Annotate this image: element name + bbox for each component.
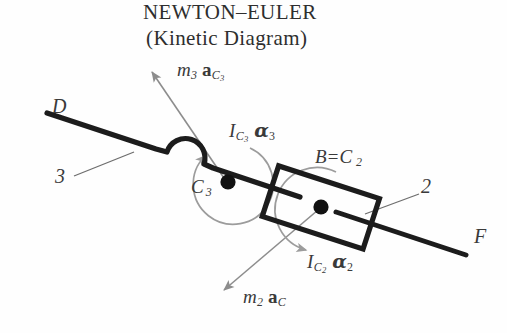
IC2-inertia-subscript: C — [313, 260, 321, 274]
IC2-alpha-symbol: α — [326, 250, 347, 272]
label-center-c3: C3 — [191, 177, 212, 199]
IC2-alpha-subscript: 2 — [347, 260, 353, 274]
m2-accel-subscript: C — [278, 295, 286, 309]
label-moment-IC3-alpha3: IC3α3 — [229, 121, 275, 143]
label-moment-IC2-alpha2: IC2α2 — [307, 252, 353, 274]
label-center-c3-sub: 3 — [204, 185, 212, 199]
label-block-base: B=C — [315, 146, 352, 167]
m3-mass-symbol: m — [177, 59, 191, 80]
m2-mass-symbol: m — [243, 286, 257, 307]
label-point-f: F — [474, 226, 486, 246]
label-block-sub: 2 — [352, 155, 362, 169]
mechanism-layer — [0, 0, 507, 333]
m3-accel-subscript2: 3 — [220, 73, 225, 83]
label-link-3: 3 — [55, 166, 65, 186]
label-link-2: 2 — [421, 176, 431, 196]
label-vector-m3-aC3: m3aC3 — [177, 60, 224, 82]
m3-accel-subscript: C — [212, 68, 220, 82]
center-of-mass-c2-dot — [313, 199, 328, 214]
label-vector-m2-aC: m2aC — [243, 287, 286, 309]
label-block-b-equals-c2: B=C2 — [315, 147, 362, 169]
kinetic-diagram-figure: NEWTON–EULER (Kinetic Diagram) — [0, 0, 507, 333]
label-point-d: D — [52, 96, 66, 116]
IC3-alpha-symbol: α — [248, 119, 269, 141]
m2-accel-symbol: a — [263, 286, 278, 307]
IC3-alpha-subscript: 3 — [269, 129, 275, 143]
m3-accel-symbol: a — [197, 59, 212, 80]
center-of-mass-c3-dot — [220, 174, 235, 189]
IC3-inertia-subscript: C — [235, 129, 243, 143]
label-center-c3-base: C — [191, 176, 204, 197]
